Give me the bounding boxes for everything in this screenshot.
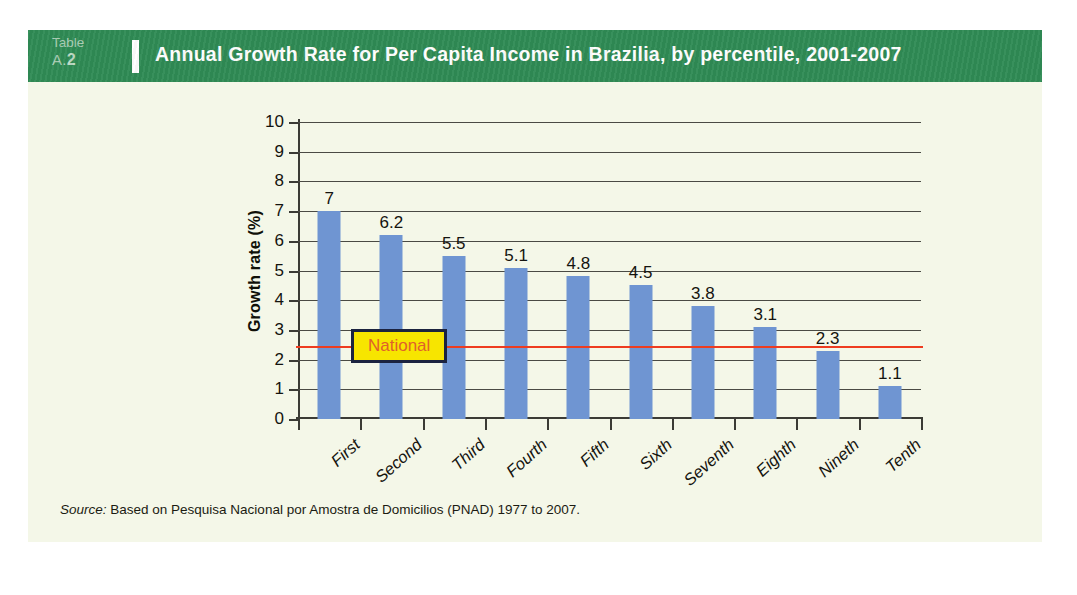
y-axis-line [298, 119, 300, 420]
x-axis-category-label: Third [448, 435, 489, 474]
source-note-prefix: Source: [60, 502, 107, 517]
x-axis-category-label: Fifth [576, 435, 613, 471]
y-axis-tick-label: 4 [275, 290, 284, 310]
bar [505, 268, 528, 419]
table-tag-word: Table [52, 35, 126, 51]
header-divider-rule [132, 40, 139, 73]
table-tag-number-prefix: A. [52, 51, 67, 68]
y-axis-tick-label: 7 [275, 201, 284, 221]
y-axis-title: Growth rate (%) [243, 122, 267, 419]
bar [380, 235, 403, 419]
figure-header-bar: Table A.2 Annual Growth Rate for Per Cap… [28, 30, 1042, 82]
source-note-text: Based on Pesquisa Nacional por Amostra d… [107, 502, 581, 517]
x-axis-category-label: Fourth [503, 435, 551, 481]
bar-value-label: 3.8 [691, 284, 715, 306]
bar-value-label: 5.1 [504, 246, 528, 268]
y-axis-tick [289, 152, 298, 154]
bar [878, 386, 901, 419]
x-axis-tick [360, 419, 362, 430]
gridline [298, 152, 921, 153]
y-axis-tick-label: 5 [275, 261, 284, 281]
x-axis-category-label: First [327, 435, 364, 471]
y-axis-tick-label: 6 [275, 231, 284, 251]
y-axis-tick-label: 0 [275, 409, 284, 429]
bar-value-label: 4.5 [629, 263, 653, 285]
bar [816, 351, 839, 419]
table-tag-number: A.2 [52, 51, 126, 69]
x-axis-tick [921, 419, 923, 430]
y-axis-tick-label: 1 [275, 379, 284, 399]
table-tag: Table A.2 [52, 35, 126, 69]
x-axis-tick [796, 419, 798, 430]
y-axis-tick [289, 241, 298, 243]
gridline [298, 122, 921, 123]
bar-value-label: 7 [324, 189, 333, 211]
y-axis-tick [289, 330, 298, 332]
y-axis-tick-label: 3 [275, 320, 284, 340]
y-axis-tick [289, 211, 298, 213]
x-axis-tick [859, 419, 861, 430]
x-axis-tick [672, 419, 674, 430]
bar-value-label: 6.2 [380, 213, 404, 235]
bar-value-label: 1.1 [878, 364, 902, 386]
x-axis-tick [610, 419, 612, 430]
table-tag-number-value: 2 [67, 51, 76, 68]
y-axis-tick-label: 2 [275, 350, 284, 370]
y-axis-tick [289, 360, 298, 362]
x-axis-tick [423, 419, 425, 430]
x-axis-tick [298, 419, 300, 430]
x-axis-category-label: Seventh [680, 435, 738, 490]
bar-value-label: 3.1 [753, 305, 777, 327]
x-axis-tick [734, 419, 736, 430]
x-axis-category-label: Eighth [752, 435, 799, 480]
plot-area: 012345678910 76.25.55.14.84.53.83.12.31.… [298, 122, 921, 419]
figure-title: Annual Growth Rate for Per Capita Income… [155, 43, 1032, 66]
bar-value-label: 4.8 [567, 254, 591, 276]
y-axis-tick [289, 389, 298, 391]
y-axis-tick-label: 8 [275, 171, 284, 191]
national-average-callout: National [351, 329, 447, 363]
y-axis-tick [289, 300, 298, 302]
y-axis-tick-label: 9 [275, 142, 284, 162]
y-axis-tick [289, 419, 298, 421]
x-axis-category-label: Sixth [635, 435, 675, 474]
y-axis-tick [289, 181, 298, 183]
bar [318, 211, 341, 419]
chart-area: Growth rate (%) 012345678910 76.25.55.14… [28, 82, 1042, 542]
x-axis-category-label: Nineth [814, 435, 862, 481]
figure-container: Table A.2 Annual Growth Rate for Per Cap… [0, 0, 1077, 595]
bar-value-label: 5.5 [442, 234, 466, 256]
y-axis-title-text: Growth rate (%) [246, 209, 264, 331]
bar [629, 285, 652, 419]
y-axis-tick-label: 10 [265, 112, 284, 132]
x-axis-tick [485, 419, 487, 430]
x-axis-category-label: Tenth [882, 435, 925, 476]
x-axis-tick [547, 419, 549, 430]
y-axis-tick [289, 271, 298, 273]
bar [754, 327, 777, 419]
x-axis-category-label: Second [372, 435, 426, 487]
source-note: Source: Based on Pesquisa Nacional por A… [60, 502, 580, 517]
y-axis-tick [289, 122, 298, 124]
bar [691, 306, 714, 419]
gridline [298, 181, 921, 182]
